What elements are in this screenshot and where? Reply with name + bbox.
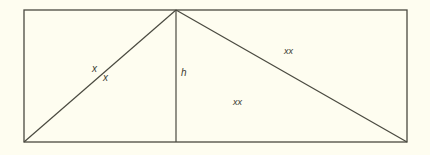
- right-hypotenuse: [176, 10, 407, 142]
- geometry-diagram: [0, 0, 430, 155]
- label-xx-side: xx: [284, 47, 293, 56]
- label-x-upper: x: [92, 64, 97, 74]
- label-h: h: [181, 68, 187, 78]
- label-xx-region: xx: [233, 98, 242, 107]
- label-x-lower: x: [103, 73, 108, 83]
- left-hypotenuse: [24, 10, 176, 142]
- outer-rectangle: [24, 10, 407, 142]
